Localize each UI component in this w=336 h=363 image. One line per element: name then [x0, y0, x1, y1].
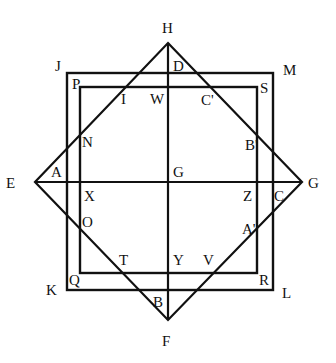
point-label-Q: Q: [69, 272, 80, 288]
point-label-T: T: [119, 252, 128, 268]
point-label-O: O: [82, 214, 93, 230]
point-label-W: W: [150, 91, 165, 107]
point-label-A-prime: A': [242, 221, 256, 237]
point-label-H: H: [162, 20, 173, 36]
point-label-B: B: [153, 294, 163, 310]
point-label-A: A: [51, 164, 62, 180]
point-label-Z: Z: [243, 188, 252, 204]
point-label-E: E: [6, 175, 15, 191]
point-label-X: X: [84, 188, 95, 204]
point-label-R: R: [259, 272, 269, 288]
point-label-P: P: [72, 76, 80, 92]
point-label-G: G: [173, 164, 184, 180]
point-label-Y: Y: [173, 252, 184, 268]
point-label-K: K: [46, 282, 57, 298]
point-label-V: V: [203, 252, 214, 268]
geometry-diagram: HJMDPSIWC'NB'EAGGXZCOA'TYVQRKLBF: [0, 0, 336, 363]
point-label-J: J: [55, 58, 61, 74]
point-label-I: I: [121, 91, 126, 107]
point-label-S: S: [260, 80, 268, 96]
point-label-M: M: [283, 62, 296, 78]
point-label-C: C: [274, 188, 284, 204]
point-label-N: N: [82, 134, 93, 150]
point-label-L: L: [282, 285, 291, 301]
point-label-F: F: [162, 333, 170, 349]
point-label-D: D: [173, 58, 184, 74]
point-label-G: G: [308, 175, 319, 191]
point-label-C-prime: C': [201, 92, 214, 108]
diagram-svg: HJMDPSIWC'NB'EAGGXZCOA'TYVQRKLBF: [0, 0, 336, 363]
point-label-B-prime: B': [245, 137, 258, 153]
